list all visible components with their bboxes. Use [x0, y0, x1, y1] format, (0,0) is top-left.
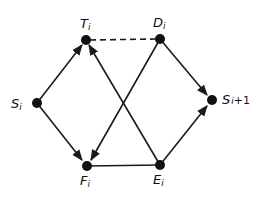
edge-ei-to-ti: [89, 45, 160, 165]
node-ti: [81, 35, 91, 45]
edge-di-to-fi: [91, 39, 160, 160]
edge-ti-di-dashed: [90, 39, 156, 40]
node-ei: [155, 160, 165, 170]
edge-fi-ei: [87, 165, 160, 166]
edge-ei-to-si1: [160, 106, 207, 165]
label-si1: Si+1: [222, 92, 250, 107]
edge-di-to-si1: [160, 39, 207, 95]
node-fi: [82, 161, 92, 171]
edge-si-to-ti: [37, 45, 82, 103]
label-ei: Ei: [153, 172, 164, 188]
edge-si-to-fi: [37, 103, 82, 160]
label-fi: Fi: [80, 173, 90, 189]
label-di: Di: [153, 15, 166, 31]
state-transition-diagram: Si Ti Di Fi Ei Si+1: [0, 0, 264, 197]
node-si: [32, 98, 42, 108]
node-di: [155, 34, 165, 44]
node-si1: [207, 95, 217, 105]
label-si: Si: [11, 96, 22, 112]
label-ti: Ti: [80, 16, 91, 32]
